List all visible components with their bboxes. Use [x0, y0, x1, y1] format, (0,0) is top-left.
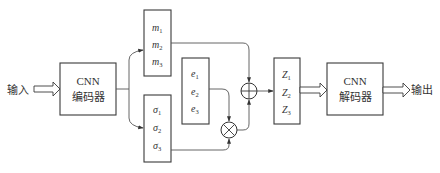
- multiply-to-add-arrow: [237, 100, 249, 130]
- add-operator-icon: [241, 83, 257, 99]
- sigma-to-multiply-arrow: [171, 139, 229, 150]
- to-mean-arrow: [129, 50, 143, 89]
- decoder-title: CNN: [343, 75, 366, 87]
- vae-diagram: 输入 CNN 编码器 m1 m2 m3 σ1 σ2 σ3 e1 e2 e3: [0, 0, 440, 173]
- decoder-subtitle: 解码器: [339, 90, 372, 104]
- encoder-subtitle: 编码器: [72, 90, 105, 104]
- encoder-title: CNN: [76, 75, 99, 87]
- cnn-decoder-block: CNN 解码器: [327, 63, 383, 115]
- output-label: 输出: [411, 83, 433, 97]
- mean-vector-box: m1 m2 m3: [144, 10, 171, 76]
- latent-to-decoder-arrow-icon: [300, 83, 327, 97]
- sigma-vector-box: σ1 σ2 σ3: [144, 95, 171, 162]
- latent-vector-box: Z1 Z2 Z3: [274, 58, 300, 124]
- cnn-encoder-block: CNN 编码器: [60, 63, 116, 115]
- epsilon-vector-box: e1 e2 e3: [182, 58, 209, 124]
- output-arrow-icon: [383, 83, 410, 97]
- epsilon-to-multiply-arrow: [209, 89, 229, 121]
- input-arrow-icon: [34, 82, 60, 96]
- input-label: 输入: [7, 83, 29, 97]
- multiply-operator-icon: [221, 122, 237, 138]
- to-sigma-arrow: [129, 89, 143, 128]
